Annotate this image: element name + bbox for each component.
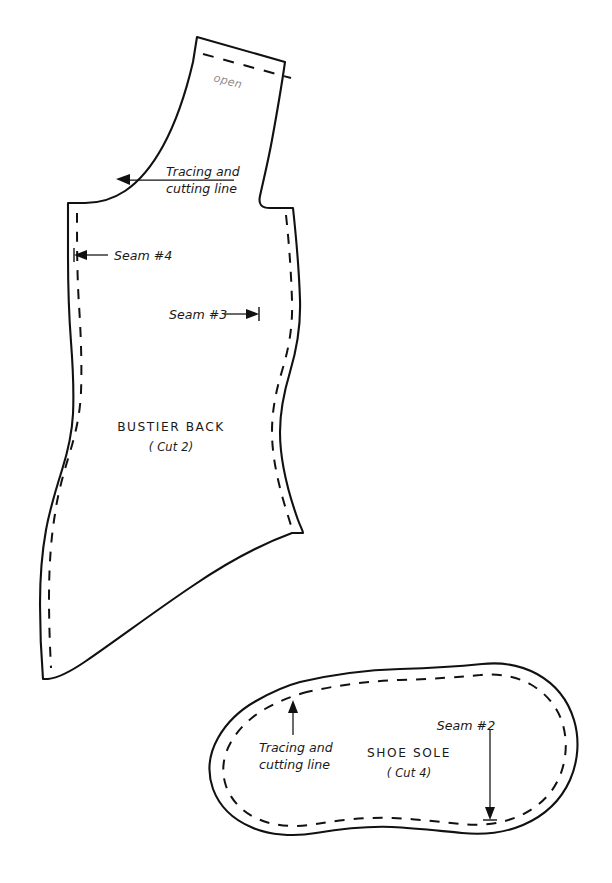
sole-tracing-label-line1: Tracing and	[259, 740, 334, 755]
bustier-tracing-label-line1: Tracing and	[166, 164, 241, 179]
seam-4-label: Seam #4	[114, 248, 172, 263]
shoe-sole-piece: Tracing and cutting line Seam #2 SHOE SO…	[210, 663, 578, 835]
pattern-canvas: open Tracing and cutting line Seam #4 Se…	[0, 0, 612, 883]
pattern-sheet: open Tracing and cutting line Seam #4 Se…	[0, 0, 612, 883]
bustier-cut-label: ( Cut 2)	[149, 440, 194, 454]
bustier-back-piece: open Tracing and cutting line Seam #4 Se…	[40, 37, 303, 679]
bustier-tracing-label-line2: cutting line	[166, 181, 237, 196]
bustier-title-label: BUSTIER BACK	[117, 420, 225, 434]
sole-cut-label: ( Cut 4)	[387, 766, 432, 780]
sole-tracing-label-line2: cutting line	[259, 757, 330, 772]
sole-title-label: SHOE SOLE	[367, 746, 451, 760]
bustier-cutting-outline	[40, 37, 303, 679]
bustier-tracing-arrowhead	[116, 174, 130, 185]
seam-2-label: Seam #2	[437, 718, 495, 733]
seam-3-label: Seam #3	[169, 307, 227, 322]
